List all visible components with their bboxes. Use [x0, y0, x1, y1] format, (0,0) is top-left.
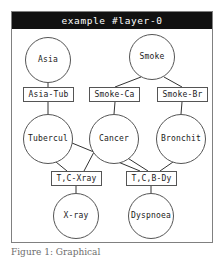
- graph-node-tubercul[interactable]: Tubercul: [23, 114, 73, 164]
- graph-edge: [84, 152, 94, 171]
- figure-caption: Figure 1: Graphical: [11, 247, 224, 257]
- graph-node-label: X-ray: [63, 212, 88, 220]
- graph-node-label: Asia-Tub: [28, 91, 68, 99]
- graph-node-label: T,C-Xray: [56, 175, 96, 183]
- graph-edge: [126, 157, 148, 171]
- graph-node-smoke-ca[interactable]: Smoke-Ca: [89, 87, 140, 102]
- graph-node-label: Tubercul: [28, 135, 68, 143]
- graph-node-bronchit[interactable]: Bronchit: [156, 114, 206, 164]
- graph-edge: [164, 77, 182, 87]
- graph-node-asia[interactable]: Asia: [25, 37, 71, 83]
- graph-edge: [181, 102, 182, 114]
- figure-title-bar: example #layer-0: [12, 12, 212, 29]
- graph-node-xray[interactable]: X-ray: [53, 193, 99, 239]
- graph-node-label: Bronchit: [161, 135, 201, 143]
- graph-edge: [114, 102, 115, 114]
- graph-node-asia-tub[interactable]: Asia-Tub: [23, 87, 74, 102]
- graph-node-cancer[interactable]: Cancer: [89, 114, 139, 164]
- graph-node-label: Smoke: [139, 53, 164, 61]
- factor-graph-canvas: AsiaSmokeTuberculCancerBronchitX-rayDysp…: [12, 29, 212, 242]
- graph-node-label: Cancer: [99, 135, 129, 143]
- graph-node-label: Asia: [38, 56, 58, 64]
- graph-node-label: Dyspnoea: [131, 212, 171, 220]
- graph-node-label: Smoke-Br: [162, 91, 202, 99]
- graph-edge: [160, 162, 173, 171]
- graph-edge: [115, 77, 141, 87]
- graph-node-t-c-b-dy[interactable]: T,C,B-Dy: [126, 171, 177, 186]
- graph-node-smoke-br[interactable]: Smoke-Br: [157, 87, 208, 102]
- graph-node-dyspnoea[interactable]: Dyspnoea: [128, 193, 174, 239]
- graph-node-smoke[interactable]: Smoke: [129, 34, 175, 80]
- graph-node-label: Smoke-Ca: [94, 91, 134, 99]
- figure-image: example #layer-0 AsiaSmokeTuberculCancer…: [0, 0, 224, 258]
- graph-edge: [56, 162, 67, 171]
- graph-node-t-c-xray[interactable]: T,C-Xray: [51, 171, 102, 186]
- figure-title: example #layer-0: [61, 15, 162, 26]
- graph-node-label: T,C,B-Dy: [131, 175, 171, 183]
